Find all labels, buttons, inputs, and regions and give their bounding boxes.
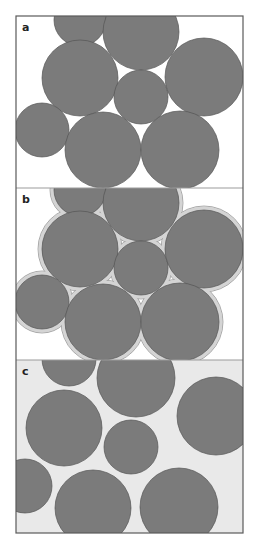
particle-circle [104, 420, 158, 474]
panel-b: b [11, 160, 247, 365]
particle-circle [15, 103, 69, 157]
particle-circle [141, 111, 219, 189]
circle-packing-figure: a b c [0, 0, 256, 557]
particle-circle [114, 70, 168, 124]
panel-c: c [0, 332, 255, 546]
particle-circle [55, 470, 131, 546]
particle-circle [114, 241, 168, 295]
panel-a: a [15, 0, 243, 189]
panel-c-label: c [22, 365, 29, 378]
particle-circle [15, 275, 69, 329]
particle-circle [65, 112, 141, 188]
particle-circle [0, 459, 52, 513]
particle-circle [165, 210, 243, 288]
particle-circle [141, 283, 219, 361]
panel-b-label: b [22, 193, 30, 206]
particle-circle [103, 0, 179, 70]
particle-circle [26, 390, 102, 466]
panel-a-label: a [22, 21, 29, 34]
particle-circle [42, 211, 118, 287]
particle-circle [165, 38, 243, 116]
particle-circle [65, 284, 141, 360]
particle-circle [42, 40, 118, 116]
particle-circle [140, 468, 218, 546]
